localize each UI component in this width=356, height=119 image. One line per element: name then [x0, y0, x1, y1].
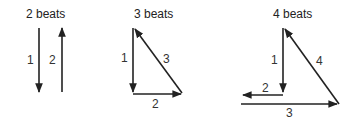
stroke-label: 4 — [316, 54, 323, 68]
stroke-label: 1 — [27, 53, 34, 67]
diagram-title: 3 beats — [134, 7, 173, 21]
diagram-title: 2 beats — [26, 7, 65, 21]
stroke-label: 3 — [286, 106, 293, 119]
diagram-4-beats: 4 beats 1 2 3 4 — [241, 7, 339, 119]
diagram-3-beats: 3 beats 1 2 3 — [121, 7, 182, 111]
stroke-label: 1 — [271, 53, 278, 67]
stroke-label: 2 — [49, 53, 56, 67]
stroke-label: 3 — [163, 52, 170, 66]
arrow-diagonal-icon — [285, 29, 339, 104]
diagram-title: 4 beats — [273, 7, 312, 21]
stroke-label: 2 — [152, 97, 159, 111]
diagram-2-beats: 2 beats 1 2 — [26, 7, 65, 92]
arrow-diagonal-icon — [135, 29, 182, 93]
stroke-label: 2 — [262, 81, 269, 95]
conducting-patterns-diagram: 2 beats 1 2 3 beats 1 2 3 4 beats 1 2 3 … — [0, 0, 356, 119]
stroke-label: 1 — [121, 51, 128, 65]
